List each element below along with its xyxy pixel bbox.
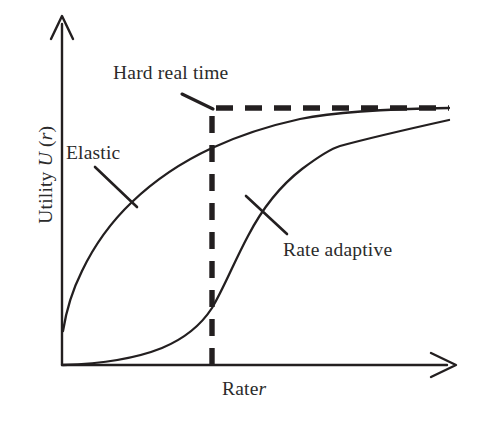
series-elastic: [63, 108, 449, 331]
y-axis-label: Utility U (r): [36, 110, 56, 240]
annotation-label-elastic: Elastic: [66, 143, 120, 163]
x-axis-label: Rater: [222, 379, 266, 399]
y-axis-label-variable-u: U: [35, 152, 56, 166]
annotation-label-rate-adaptive: Rate adaptive: [283, 240, 392, 260]
y-axis-label-variable-r: r: [35, 132, 56, 140]
y-axis-label-text: Utility: [35, 171, 56, 223]
utility-vs-rate-figure: Hard real time Elastic Rate adaptive Rat…: [0, 0, 479, 427]
leader-line-elastic: [95, 167, 137, 207]
leader-line-hard-real-time: [182, 94, 213, 109]
axes-group: [51, 16, 456, 377]
y-axis-label-paren-close: ): [35, 126, 56, 133]
y-axis-label-paren-open: (: [35, 140, 56, 147]
series-group: [63, 108, 449, 365]
x-axis-label-text: Rate: [222, 378, 259, 399]
x-axis-label-variable: r: [259, 378, 267, 399]
annotation-leader-lines: [95, 94, 287, 234]
plot-canvas: [0, 0, 479, 427]
annotation-label-hard-real-time: Hard real time: [113, 63, 228, 83]
